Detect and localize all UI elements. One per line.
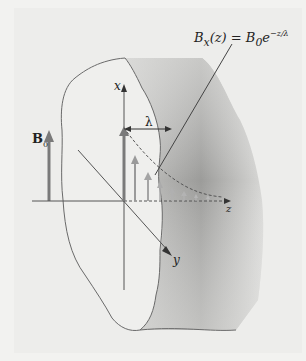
x-axis-label: x	[114, 80, 121, 92]
formula-label: Bx(z) = B0e−z/λ	[194, 30, 289, 48]
superconductor-figure	[0, 0, 306, 361]
formula-exponent: −z/λ	[270, 29, 289, 38]
z-axis-label: z	[226, 204, 231, 214]
b0-subscript: 0	[43, 140, 48, 149]
formula-lhs: B	[194, 30, 204, 45]
b0-label: B0	[32, 132, 48, 149]
lambda-label: λ	[145, 116, 153, 128]
formula-exp-base: e	[262, 30, 270, 45]
diagram-canvas: Bx(z) = B0e−z/λ B0 x y z λ	[0, 0, 306, 361]
formula-arg: (z) = B	[210, 30, 256, 45]
y-axis-label: y	[173, 254, 180, 266]
b0-symbol: B	[32, 131, 43, 146]
